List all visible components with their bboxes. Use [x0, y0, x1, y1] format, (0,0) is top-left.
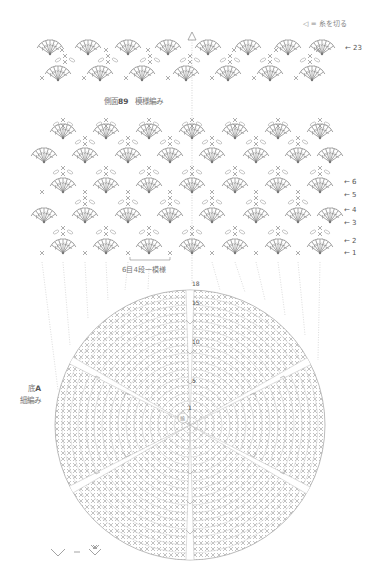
- round-marker-18: 18: [192, 280, 200, 287]
- round-marker-1: 1: [188, 404, 192, 411]
- round-marker-10: 10: [192, 338, 200, 345]
- row-label-1: ← 1: [344, 249, 357, 257]
- row-label-6: ← 6: [344, 178, 357, 186]
- legend-bottom-symbols: [51, 545, 101, 556]
- legend-equals: =: [311, 20, 317, 28]
- row-label-2: ← 2: [344, 237, 357, 245]
- legend-cut-yarn: ◁ = 糸を切る: [303, 18, 347, 28]
- side-panel-title: 側面89 模様編み: [104, 95, 163, 106]
- base-circle-chart: [55, 290, 325, 560]
- cut-yarn-icon: ◁: [303, 20, 308, 28]
- round-marker-5: 5: [192, 377, 196, 384]
- base-panel-title: 底A 細編み: [20, 383, 41, 407]
- side-title-prefix: 側面: [104, 97, 118, 106]
- row-label-4: ← 4: [344, 206, 357, 214]
- round-marker-15: 15: [192, 299, 200, 306]
- base-title-letter: A: [35, 384, 41, 393]
- side-title-suffix: 模様編み: [135, 97, 163, 106]
- side-title-number: 89: [118, 97, 128, 106]
- base-title-stitch: 細編み: [20, 395, 41, 407]
- legend-cut-yarn-text: 糸を切る: [319, 20, 347, 28]
- side-pattern-block: [31, 118, 343, 260]
- repeat-note: 6目4段一模様: [122, 264, 166, 274]
- row-label-3: ← 3: [344, 219, 357, 227]
- row-label-23: ← 23: [345, 44, 362, 52]
- row-label-5: ← 5: [344, 191, 357, 199]
- top-pattern-strip: [37, 32, 335, 82]
- center-ring-label: 輪: [180, 414, 185, 421]
